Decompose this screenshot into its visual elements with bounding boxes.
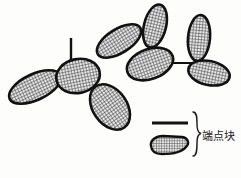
- legend-sample-blob: [151, 136, 188, 154]
- blob-right-vertical: [186, 14, 212, 62]
- figure-root: 端点块: [0, 0, 241, 178]
- legend-label-endpoint-block: 端点块: [202, 130, 235, 143]
- blob-right-lower: [186, 57, 232, 89]
- blob-top-petal: [139, 2, 171, 50]
- blob-left-outer: [4, 63, 66, 110]
- diagram-canvas: [0, 0, 241, 178]
- legend-brace-icon: [193, 112, 201, 156]
